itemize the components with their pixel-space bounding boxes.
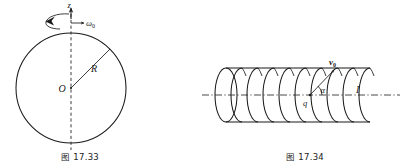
angle-label: α [321, 85, 326, 95]
velocity-subscript: 0 [333, 62, 336, 68]
coil-back-arc [338, 68, 342, 76]
angular-velocity-subscript: 0 [92, 23, 95, 29]
figures-svg: z ω0 O R [0, 0, 402, 167]
figure-17-34-caption: 图 17.34 [225, 150, 385, 162]
coil-back-arc [274, 68, 278, 76]
figure-sheet: z ω0 O R [0, 0, 402, 167]
coil-back-arc [354, 68, 358, 76]
solenoid-back-arcs [242, 68, 374, 76]
z-axis-label: z [67, 0, 72, 10]
figure-17-33-group: z ω0 O R [16, 0, 126, 150]
coil-back-arc [306, 68, 310, 76]
figure-17-34-group: q α v0 I [202, 57, 400, 122]
coil-back-arc [370, 68, 374, 76]
coil-back-arc [290, 68, 294, 76]
coil-back-arc [242, 68, 246, 76]
figure-17-33-caption: 图 17.33 [0, 150, 160, 162]
current-label: I [355, 84, 360, 95]
rotation-arc-arrowhead [46, 17, 56, 26]
center-label: O [59, 83, 66, 94]
coil-back-arc [322, 68, 326, 76]
charge-label: q [303, 98, 308, 108]
coil-back-arc [258, 68, 262, 76]
radius-label: R [90, 63, 97, 74]
velocity-label: v0 [329, 57, 336, 68]
center-point-marker [70, 87, 72, 89]
angular-velocity-label: ω0 [86, 18, 95, 29]
